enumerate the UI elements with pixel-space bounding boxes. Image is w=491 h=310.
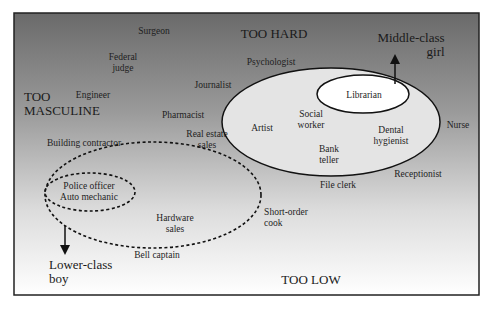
occ-hardware-sales: Hardware sales <box>156 213 193 235</box>
occ-pharmacist: Pharmacist <box>162 110 204 121</box>
occ-short-order-cook: Short-order cook <box>264 207 308 229</box>
occ-file-clerk: File clerk <box>320 180 356 191</box>
occ-police-officer-auto-mechanic: Police officer Auto mechanic <box>60 181 118 203</box>
label-too-hard: TOO HARD <box>241 27 308 41</box>
occ-nurse: Nurse <box>447 120 470 131</box>
occ-surgeon: Surgeon <box>138 26 170 37</box>
occupational-zone-diagram: TOO HARD TOO MASCULINE TOO LOW Middle-cl… <box>0 0 491 310</box>
occ-social-worker: Social worker <box>298 109 325 131</box>
occ-librarian: Librarian <box>346 90 381 101</box>
occ-bell-captain: Bell captain <box>134 250 180 261</box>
occ-journalist: Journalist <box>195 80 232 91</box>
occ-receptionist: Receptionist <box>394 169 442 180</box>
occ-real-estate-sales: Real estate sales <box>186 129 227 151</box>
label-lower-class-boy: Lower-class boy <box>49 258 112 286</box>
label-too-low: TOO LOW <box>281 273 340 287</box>
occ-artist: Artist <box>251 123 273 134</box>
occ-psychologist: Psychologist <box>247 57 296 68</box>
occ-federal-judge: Federal judge <box>109 52 138 74</box>
occ-dental-hygienist: Dental hygienist <box>374 125 409 147</box>
label-middle-class-girl: Middle-class girl <box>377 31 444 59</box>
occ-building-contractor: Building contractor <box>47 138 121 149</box>
occ-engineer: Engineer <box>76 90 110 101</box>
occ-bank-teller: Bank teller <box>319 144 339 166</box>
